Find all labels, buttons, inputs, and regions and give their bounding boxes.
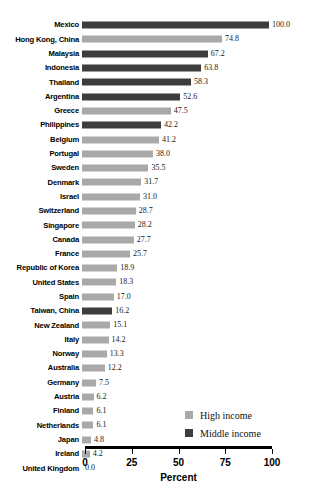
chart-bar-row: Canada27.7 (0, 232, 312, 246)
legend-label-high-income: High income (200, 410, 252, 421)
bar-category-label: Philippines (0, 121, 82, 129)
bar-track: 14.2 (82, 333, 312, 347)
bar-track: 100.0 (82, 18, 312, 32)
bar-value-label: 47.5 (174, 107, 188, 115)
bar-track: 27.7 (82, 232, 312, 246)
bar-category-label: Italy (0, 336, 82, 344)
bar-high-income (82, 107, 171, 114)
bar-track: 63.8 (82, 61, 312, 75)
x-axis-tick (225, 449, 226, 454)
bar-category-label: Austria (0, 393, 82, 401)
chart-bar-row: Portugal38.0 (0, 147, 312, 161)
bar-track: 15.1 (82, 318, 312, 332)
bar-track: 52.6 (82, 89, 312, 103)
bar-category-label: Indonesia (0, 64, 82, 72)
bar-category-label: Argentina (0, 93, 82, 101)
bar-high-income (82, 336, 109, 343)
bar-value-label: 4.8 (94, 436, 104, 444)
bar-value-label: 27.7 (137, 236, 151, 244)
bar-value-label: 18.3 (119, 278, 133, 286)
chart-bar-row: Taiwan, China16.2 (0, 304, 312, 318)
legend-swatch-high-income (185, 411, 193, 419)
bar-chart: Mexico100.0Hong Kong, China74.8Malaysia6… (0, 0, 312, 500)
bar-value-label: 74.8 (225, 35, 239, 43)
x-axis-tick (132, 449, 133, 454)
bar-high-income (82, 136, 159, 143)
chart-bar-row: United States18.3 (0, 275, 312, 289)
bar-value-label: 41.2 (162, 136, 176, 144)
bar-category-label: Norway (0, 350, 82, 358)
bar-track: 35.5 (82, 161, 312, 175)
legend-item-middle-income: Middle income (185, 424, 261, 442)
bar-track: 74.8 (82, 32, 312, 46)
bar-high-income (82, 150, 153, 157)
bar-category-label: New Zealand (0, 322, 82, 330)
bar-category-label: Greece (0, 107, 82, 115)
chart-bar-row: Sweden35.5 (0, 161, 312, 175)
bar-track: 12.2 (82, 361, 312, 375)
bar-value-label: 14.2 (112, 336, 126, 344)
bar-category-label: Belgium (0, 136, 82, 144)
bar-category-label: Japan (0, 436, 82, 444)
bar-middle-income (82, 65, 201, 72)
bar-value-label: 17.0 (117, 293, 131, 301)
bar-category-label: France (0, 250, 82, 258)
bar-category-label: Denmark (0, 179, 82, 187)
bar-category-label: Portugal (0, 150, 82, 158)
bar-middle-income (82, 122, 161, 129)
bar-high-income (82, 379, 96, 386)
bar-high-income (82, 208, 136, 215)
bar-track: 25.7 (82, 247, 312, 261)
chart-bar-row: Indonesia63.8 (0, 61, 312, 75)
bar-high-income (82, 36, 222, 43)
bar-high-income (82, 322, 110, 329)
chart-bar-row: Denmark31.7 (0, 175, 312, 189)
bar-category-label: Australia (0, 364, 82, 372)
bar-track: 38.0 (82, 147, 312, 161)
bar-value-label: 18.9 (120, 264, 134, 272)
bar-category-label: Thailand (0, 79, 82, 87)
bar-high-income (82, 436, 91, 443)
bar-category-label: Malaysia (0, 50, 82, 58)
bar-category-label: Taiwan, China (0, 307, 82, 315)
x-axis-title: Percent (85, 472, 272, 483)
bar-category-label: Mexico (0, 21, 82, 29)
bar-track: 17.0 (82, 290, 312, 304)
bar-category-label: Israel (0, 193, 82, 201)
chart-plot-area: Mexico100.0Hong Kong, China74.8Malaysia6… (0, 18, 312, 476)
bar-value-label: 52.6 (183, 93, 197, 101)
bar-track: 28.7 (82, 204, 312, 218)
bar-track: 31.0 (82, 190, 312, 204)
bar-high-income (82, 293, 114, 300)
chart-bar-row: Australia12.2 (0, 361, 312, 375)
bar-value-label: 63.8 (204, 64, 218, 72)
bar-track: 6.2 (82, 390, 312, 404)
chart-bar-row: France25.7 (0, 247, 312, 261)
bar-value-label: 12.2 (108, 364, 122, 372)
chart-bar-row: Thailand58.3 (0, 75, 312, 89)
bar-high-income (82, 393, 94, 400)
bar-middle-income (82, 22, 269, 29)
bar-value-label: 100.0 (272, 21, 290, 29)
bar-track: 18.9 (82, 261, 312, 275)
chart-bar-row: New Zealand15.1 (0, 318, 312, 332)
chart-bar-row: Republic of Korea18.9 (0, 261, 312, 275)
x-axis-tick-label: 25 (126, 457, 137, 468)
bar-high-income (82, 236, 134, 243)
bar-value-label: 6.1 (96, 407, 106, 415)
bar-high-income (82, 408, 93, 415)
bar-category-label: Spain (0, 293, 82, 301)
bar-middle-income (82, 79, 191, 86)
chart-bar-row: Norway13.3 (0, 347, 312, 361)
bar-high-income (82, 179, 141, 186)
legend-swatch-middle-income (185, 429, 193, 437)
chart-bar-row: Italy14.2 (0, 333, 312, 347)
bar-high-income (82, 193, 140, 200)
bar-value-label: 6.1 (96, 421, 106, 429)
bar-value-label: 15.1 (113, 321, 127, 329)
x-axis-tick-label: 75 (220, 457, 231, 468)
bar-middle-income (82, 93, 180, 100)
bar-category-label: Hong Kong, China (0, 36, 82, 44)
chart-bar-row: Netherlands6.1 (0, 418, 312, 432)
bar-value-label: 7.5 (99, 379, 109, 387)
